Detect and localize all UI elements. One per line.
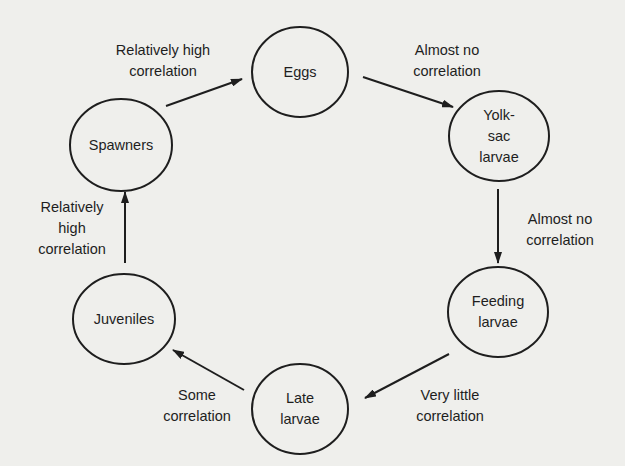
node-label-juveniles: Juveniles bbox=[94, 309, 154, 330]
edge-label-feeding-late: Very little correlation bbox=[416, 385, 484, 427]
node-label-late: Late larvae bbox=[280, 388, 320, 430]
edge-label-spawners-eggs: Relatively high correlation bbox=[116, 40, 210, 82]
edge-label-eggs-yolksac: Almost no correlation bbox=[413, 40, 481, 82]
life-cycle-diagram: Eggs Yolk- sac larvae Feeding larvae Lat… bbox=[0, 0, 625, 466]
edge-label-juveniles-spawners: Relatively high correlation bbox=[38, 197, 106, 260]
node-label-spawners: Spawners bbox=[89, 135, 153, 156]
edge-label-late-juveniles: Some correlation bbox=[163, 385, 231, 427]
edges-layer bbox=[125, 77, 498, 398]
arrow-late-to-juveniles bbox=[173, 350, 244, 390]
edge-label-yolksac-feeding: Almost no correlation bbox=[526, 209, 594, 251]
arrow-spawners-to-eggs bbox=[166, 79, 242, 106]
node-label-eggs: Eggs bbox=[283, 62, 316, 83]
node-label-feeding: Feeding larvae bbox=[472, 291, 524, 333]
node-label-yolk-sac: Yolk- sac larvae bbox=[479, 105, 519, 168]
